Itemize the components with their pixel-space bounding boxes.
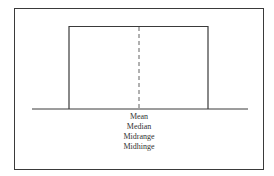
label-median: Median [127, 122, 151, 131]
label-midhinge: Midhinge [123, 142, 155, 151]
label-midrange: Midrange [123, 132, 155, 141]
uniform-distribution-shape [69, 27, 208, 110]
diagram-canvas: Mean Median Midrange Midhinge [0, 0, 274, 176]
label-mean: Mean [130, 112, 148, 121]
